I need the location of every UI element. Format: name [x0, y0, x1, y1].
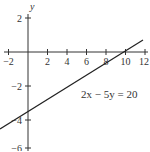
y-tick-label: 2: [17, 13, 22, 24]
x-tick-label: 4: [65, 56, 70, 67]
x-tick-label: 10: [121, 56, 131, 67]
x-tick-label: 12: [139, 56, 149, 67]
line-graph: −2 2 4 6 8 10 12 2 −2 −4 −6 y 2x − 5y = …: [0, 0, 150, 151]
y-tick-label: −6: [11, 143, 22, 152]
y-tick-label: −2: [11, 81, 22, 92]
equation-label: 2x − 5y = 20: [81, 88, 138, 100]
x-tick-label: −2: [3, 56, 14, 67]
y-axis-label: y: [29, 1, 35, 12]
x-tick-label: 6: [84, 56, 89, 67]
x-tick-label: 2: [45, 56, 50, 67]
